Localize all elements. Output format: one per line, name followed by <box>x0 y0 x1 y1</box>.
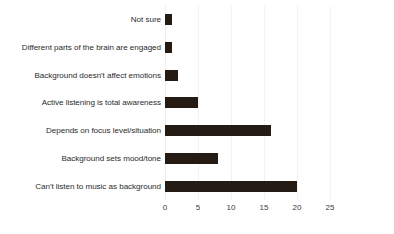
category-label: Depends on focus level/situation <box>46 126 161 135</box>
category-label: Not sure <box>131 15 161 24</box>
table-row <box>165 6 330 34</box>
table-row <box>165 117 330 145</box>
bar-chart: Not sure Different parts of the brain ar… <box>0 0 394 234</box>
x-tick-label: 5 <box>196 203 200 212</box>
x-tick-label: 0 <box>163 203 167 212</box>
category-label-row: Can't listen to music as background <box>0 172 161 200</box>
category-label: Background doesn't affect emotions <box>34 71 161 80</box>
table-row <box>165 34 330 62</box>
category-label-row: Depends on focus level/situation <box>0 117 161 145</box>
plot-area <box>165 6 330 200</box>
category-label-row: Different parts of the brain are engaged <box>0 34 161 62</box>
bar <box>165 70 178 81</box>
table-row <box>165 89 330 117</box>
category-label: Background sets mood/tone <box>61 154 161 163</box>
table-row <box>165 145 330 173</box>
table-row <box>165 172 330 200</box>
category-label-row: Background sets mood/tone <box>0 145 161 173</box>
category-axis-labels: Not sure Different parts of the brain ar… <box>0 6 161 200</box>
table-row <box>165 61 330 89</box>
bar <box>165 42 172 53</box>
x-tick-label: 15 <box>260 203 269 212</box>
category-label-row: Active listening is total awareness <box>0 89 161 117</box>
bar <box>165 14 172 25</box>
category-label-row: Not sure <box>0 6 161 34</box>
x-axis-ticks: 0510152025 <box>165 203 330 219</box>
bar <box>165 153 218 164</box>
x-tick-label: 20 <box>293 203 302 212</box>
bar-rows <box>165 6 330 200</box>
category-label: Different parts of the brain are engaged <box>22 43 161 52</box>
gridline <box>330 6 331 200</box>
bar <box>165 181 297 192</box>
bar <box>165 97 198 108</box>
category-label: Can't listen to music as background <box>35 182 161 191</box>
bar <box>165 125 271 136</box>
category-label-row: Background doesn't affect emotions <box>0 61 161 89</box>
category-label: Active listening is total awareness <box>42 98 161 107</box>
x-tick-label: 10 <box>227 203 236 212</box>
x-tick-label: 25 <box>326 203 335 212</box>
